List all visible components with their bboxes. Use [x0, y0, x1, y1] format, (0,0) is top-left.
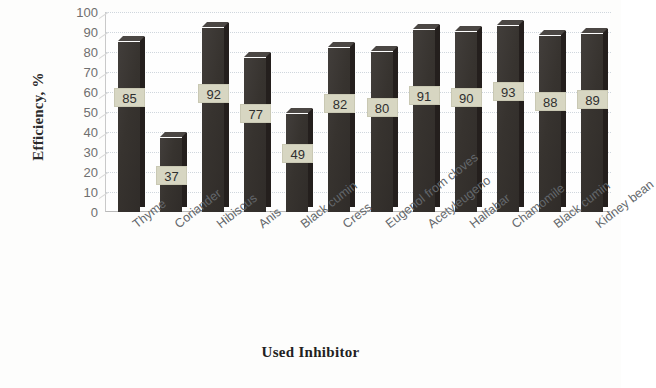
bar-value-label: 80 [367, 98, 398, 117]
bar-side-face [140, 37, 145, 207]
depth-tick [99, 192, 109, 199]
depth-tick [99, 92, 109, 99]
y-axis-tick-label: 20 [64, 166, 98, 179]
bar-front-face [202, 28, 224, 212]
bar-value-label: 37 [156, 166, 187, 185]
bar-top-face [371, 46, 398, 52]
y-axis-tick-labels: 1009080706050403020100 [64, 0, 98, 388]
bar-top-face [118, 36, 145, 42]
bar-top-face [497, 20, 524, 26]
depth-tick [99, 152, 109, 159]
depth-tick [99, 32, 109, 39]
y-axis-title: Efficiency, % [30, 27, 47, 207]
bar-front-face [371, 52, 393, 212]
y-axis-tick-label: 70 [64, 66, 98, 79]
bar-side-face [393, 47, 398, 207]
y-axis-tick-label: 60 [64, 86, 98, 99]
bar[interactable] [244, 53, 271, 212]
gridline [106, 52, 611, 53]
bar-front-face [118, 42, 140, 212]
bar[interactable] [497, 21, 524, 212]
bar-side-face [266, 53, 271, 207]
bar-top-face [328, 42, 355, 48]
bar[interactable] [371, 47, 398, 212]
y-axis-tick-label: 40 [64, 126, 98, 139]
bar-top-face [286, 108, 313, 114]
bar-value-label: 82 [324, 94, 355, 113]
bar-value-label: 49 [282, 144, 313, 163]
y-axis-tick-label: 10 [64, 186, 98, 199]
bar-top-face [160, 132, 187, 138]
depth-tick [99, 72, 109, 79]
y-axis-tick-label: 90 [64, 26, 98, 39]
y-axis-tick-label: 30 [64, 146, 98, 159]
y-axis-tick-label: 80 [64, 46, 98, 59]
bar-value-label: 93 [493, 82, 524, 101]
bar-value-label: 88 [535, 92, 566, 111]
bar-value-label: 85 [114, 88, 145, 107]
bar-top-face [413, 24, 440, 30]
bar-front-face [497, 26, 519, 212]
bar-side-face [224, 23, 229, 207]
gridline [106, 72, 611, 73]
bar-value-label: 92 [198, 84, 229, 103]
depth-tick [99, 112, 109, 119]
y-axis-tick-label: 50 [64, 106, 98, 119]
gridline [106, 32, 611, 33]
y-axis-tick-label: 0 [64, 206, 98, 219]
x-axis-category-labels: ThymeCorianderHibiscusAnisBlack cuminCre… [105, 214, 610, 334]
bar[interactable] [202, 23, 229, 212]
depth-tick [99, 12, 109, 19]
y-axis-tick-label: 100 [64, 6, 98, 19]
bar-top-face [581, 28, 608, 34]
bar[interactable] [118, 37, 145, 212]
bar-value-label: 91 [409, 86, 440, 105]
plot-area: 853792774982809190938889 [105, 12, 610, 212]
x-axis-title: Used Inhibitor [0, 344, 621, 361]
depth-tick [99, 52, 109, 59]
bar-top-face [455, 26, 482, 32]
bar-top-face [202, 22, 229, 28]
bar-front-face [244, 58, 266, 212]
depth-tick [99, 172, 109, 179]
bar-top-face [244, 52, 271, 58]
bar-side-face [561, 31, 566, 207]
bar-value-label: 77 [240, 104, 271, 123]
gridline [106, 112, 611, 113]
gridline [106, 12, 611, 13]
bar-top-face [539, 30, 566, 36]
bar-value-label: 89 [577, 90, 608, 109]
depth-tick [99, 132, 109, 139]
bar-side-face [519, 21, 524, 207]
bar-value-label: 90 [451, 88, 482, 107]
